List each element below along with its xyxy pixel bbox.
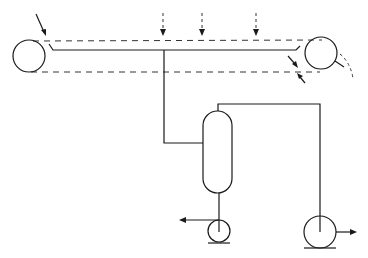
overhead-line [218, 104, 320, 232]
collection-trough [49, 44, 300, 50]
separator-vessel [203, 111, 232, 193]
overhead-outlet-arrow-icon [336, 229, 357, 235]
spray-arrow-1-icon [160, 13, 166, 36]
right-roller-icon [305, 37, 337, 69]
feed-inlet-arrow-icon [36, 14, 46, 36]
spray-arrow-3-icon [253, 13, 259, 36]
drain-line [164, 50, 203, 143]
left-roller-icon [13, 40, 45, 72]
discharge-arrow-in-icon [288, 56, 298, 68]
scraper-blade [335, 61, 344, 67]
discharge-arrow-out-icon [297, 73, 305, 83]
spray-arrow-2-icon [199, 13, 205, 36]
belt-top-run [33, 40, 322, 41]
process-diagram [0, 0, 368, 258]
